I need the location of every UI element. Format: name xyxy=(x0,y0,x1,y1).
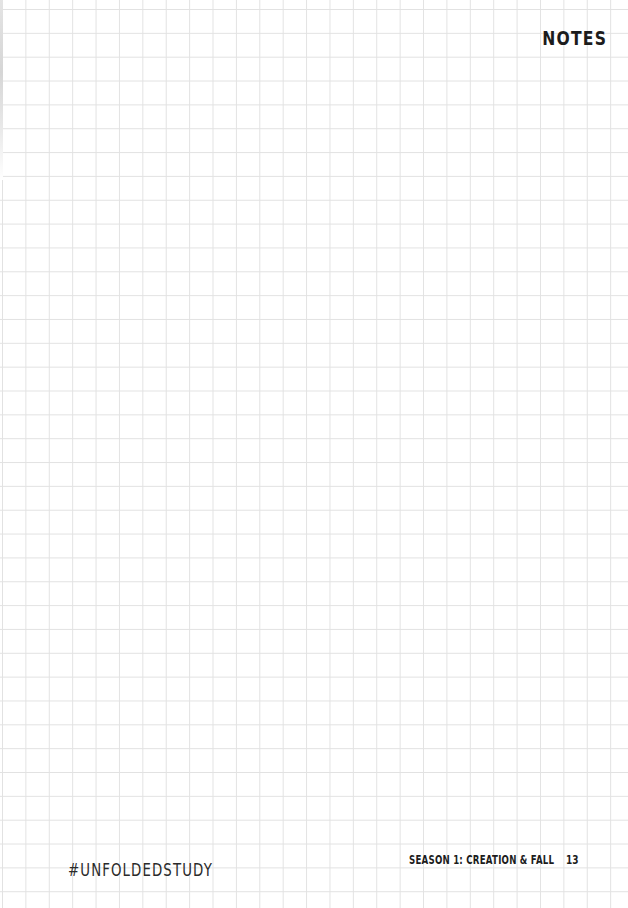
binding-edge xyxy=(0,0,3,180)
hashtag-label: #UNFOLDEDSTUDY xyxy=(68,860,213,880)
season-label: SEASON 1: CREATION & FALL xyxy=(409,853,554,867)
grid-paper-page: NOTES #UNFOLDEDSTUDY SEASON 1: CREATION … xyxy=(0,0,628,908)
page-title: NOTES xyxy=(542,27,607,49)
page-number: 13 xyxy=(566,853,579,867)
